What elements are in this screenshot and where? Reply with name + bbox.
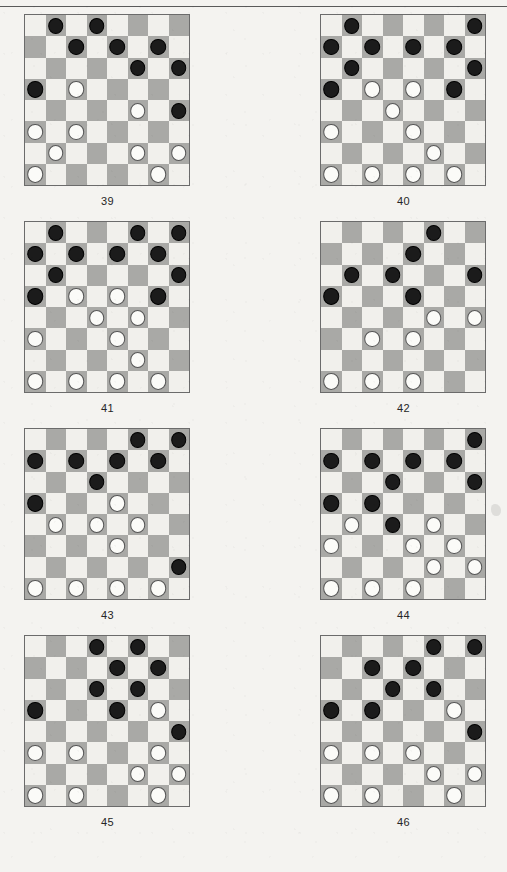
board-square[interactable] [169,222,190,243]
board-square[interactable] [465,578,486,599]
board-square[interactable] [424,429,445,450]
board-square[interactable] [444,350,465,371]
board-square[interactable] [107,222,128,243]
black-piece[interactable] [385,517,401,533]
black-piece[interactable] [467,60,483,76]
board-square[interactable] [465,785,486,806]
board-square[interactable] [362,679,383,700]
black-piece[interactable] [171,60,187,76]
board-square[interactable] [107,679,128,700]
board-square[interactable] [444,557,465,578]
board-square[interactable] [444,657,465,678]
board-square[interactable] [403,58,424,79]
white-piece[interactable] [150,745,166,761]
board-square[interactable] [169,429,190,450]
checkers-board[interactable] [24,635,190,807]
board-square[interactable] [424,578,445,599]
board-square[interactable] [342,243,363,264]
board-square[interactable] [403,764,424,785]
board-square[interactable] [342,514,363,535]
board-square[interactable] [46,578,67,599]
board-square[interactable] [46,493,67,514]
board-square[interactable] [465,450,486,471]
black-piece[interactable] [467,432,483,448]
board-square[interactable] [342,679,363,700]
white-piece[interactable] [68,288,84,304]
board-square[interactable] [25,636,46,657]
black-piece[interactable] [89,18,105,34]
board-square[interactable] [444,286,465,307]
white-piece[interactable] [364,373,380,389]
board-square[interactable] [465,535,486,556]
white-piece[interactable] [130,310,146,326]
black-piece[interactable] [27,702,43,718]
board-square[interactable] [403,121,424,142]
board-square[interactable] [46,15,67,36]
white-piece[interactable] [467,310,483,326]
board-square[interactable] [87,143,108,164]
board-square[interactable] [87,679,108,700]
board-square[interactable] [107,514,128,535]
board-square[interactable] [148,143,169,164]
black-piece[interactable] [150,660,166,676]
board-square[interactable] [424,36,445,57]
board-square[interactable] [66,143,87,164]
board-square[interactable] [444,535,465,556]
board-square[interactable] [25,514,46,535]
board-square[interactable] [321,143,342,164]
board-square[interactable] [148,450,169,471]
board-square[interactable] [465,657,486,678]
board-square[interactable] [148,636,169,657]
black-piece[interactable] [48,225,64,241]
board-square[interactable] [444,429,465,450]
board-square[interactable] [87,371,108,392]
white-piece[interactable] [364,787,380,803]
white-piece[interactable] [150,166,166,182]
black-piece[interactable] [68,39,84,55]
board-square[interactable] [107,350,128,371]
black-piece[interactable] [405,39,421,55]
board-square[interactable] [424,15,445,36]
board-square[interactable] [66,535,87,556]
board-square[interactable] [444,164,465,185]
black-piece[interactable] [171,559,187,575]
board-square[interactable] [465,493,486,514]
board-square[interactable] [66,785,87,806]
board-square[interactable] [342,657,363,678]
board-square[interactable] [383,100,404,121]
board-square[interactable] [424,785,445,806]
board-square[interactable] [107,429,128,450]
board-square[interactable] [362,742,383,763]
board-square[interactable] [403,450,424,471]
board-square[interactable] [403,785,424,806]
board-square[interactable] [107,450,128,471]
board-square[interactable] [46,100,67,121]
board-square[interactable] [66,679,87,700]
board-square[interactable] [169,700,190,721]
black-piece[interactable] [446,39,462,55]
board-square[interactable] [128,429,149,450]
board-square[interactable] [383,472,404,493]
board-square[interactable] [321,36,342,57]
checkers-board[interactable] [24,14,190,186]
board-square[interactable] [148,79,169,100]
board-square[interactable] [342,785,363,806]
board-square[interactable] [342,79,363,100]
black-piece[interactable] [426,681,442,697]
board-square[interactable] [128,328,149,349]
board-square[interactable] [128,100,149,121]
white-piece[interactable] [130,766,146,782]
board-square[interactable] [424,58,445,79]
board-square[interactable] [403,328,424,349]
board-square[interactable] [87,514,108,535]
board-square[interactable] [444,121,465,142]
board-square[interactable] [321,286,342,307]
white-piece[interactable] [426,559,442,575]
white-piece[interactable] [68,745,84,761]
board-square[interactable] [107,15,128,36]
white-piece[interactable] [89,517,105,533]
board-square[interactable] [383,493,404,514]
board-square[interactable] [148,350,169,371]
board-square[interactable] [465,164,486,185]
board-square[interactable] [444,472,465,493]
